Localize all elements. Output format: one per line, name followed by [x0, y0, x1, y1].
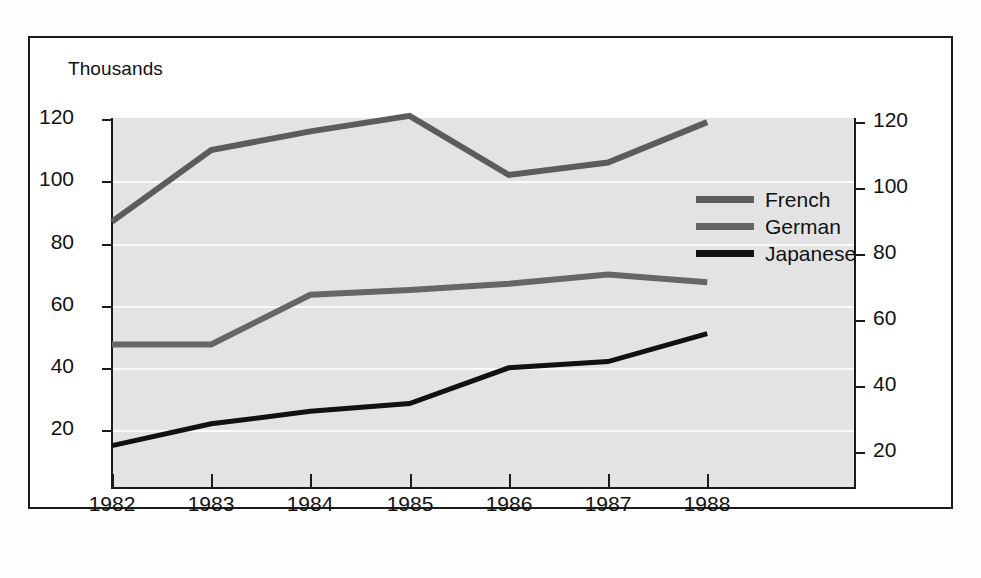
- legend-label-german: German: [765, 216, 841, 237]
- legend-item-french: French: [696, 186, 856, 213]
- legend-item-german: German: [696, 213, 856, 240]
- figure-page: Thousands 120 100 80 60 40 20 120 100 80…: [0, 0, 981, 578]
- legend-swatch-french: [696, 196, 754, 203]
- series-line-french: [112, 116, 707, 222]
- legend-swatch-german: [696, 223, 754, 230]
- legend-swatch-japanese: [696, 250, 754, 257]
- legend: French German Japanese: [696, 186, 856, 267]
- series-layer: [0, 0, 981, 578]
- legend-label-french: French: [765, 189, 830, 210]
- series-line-japanese: [112, 334, 707, 446]
- legend-item-japanese: Japanese: [696, 240, 856, 267]
- series-line-german: [112, 275, 707, 345]
- legend-label-japanese: Japanese: [765, 243, 856, 264]
